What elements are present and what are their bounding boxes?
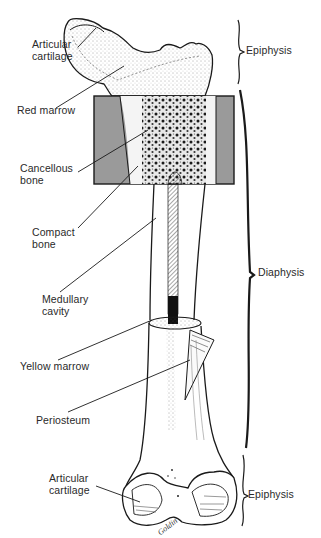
right-braces [238, 20, 254, 526]
label-epiphysis-top: Epiphysis [246, 44, 292, 56]
cross-section-box [94, 96, 234, 184]
label-articular-cartilage-bottom: Articular cartilage [49, 472, 90, 496]
label-epiphysis-bottom: Epiphysis [248, 488, 294, 500]
label-medullary-cavity: Medullary cavity [42, 293, 88, 317]
label-diaphysis: Diaphysis [258, 266, 304, 278]
label-cancellous-bone: Cancellous bone [20, 162, 73, 186]
label-compact-bone: Compact bone [32, 226, 75, 250]
proximal-epiphysis [64, 19, 212, 96]
label-articular-cartilage-top: Articular cartilage [32, 38, 73, 62]
bone-anatomy-diagram: Articular cartilage Red marrow Cancellou… [0, 0, 321, 538]
label-periosteum: Periosteum [36, 414, 90, 426]
diaphysis-shaft [126, 184, 234, 486]
label-yellow-marrow: Yellow marrow [20, 360, 89, 372]
distal-epiphysis [123, 469, 237, 525]
label-red-marrow: Red marrow [17, 104, 75, 116]
